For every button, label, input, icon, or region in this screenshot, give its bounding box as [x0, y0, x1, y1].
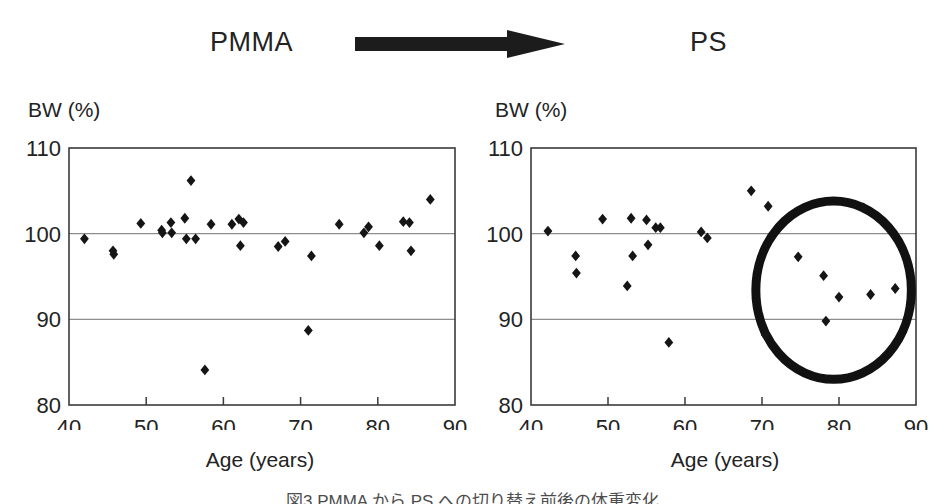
data-point-marker	[822, 316, 831, 327]
figure-caption: 図3 PMMA から PS への切り替え前後の体重変化	[0, 487, 945, 504]
data-point-marker	[835, 292, 844, 303]
data-point-marker	[236, 240, 245, 251]
x-tick-label-60: 60	[673, 415, 697, 430]
data-point-marker	[200, 364, 209, 375]
chart-panel-ps: BW (%) 8090100110405060708090 Age (years…	[470, 0, 945, 504]
x-tick-label-60: 60	[211, 415, 235, 430]
data-point-marker	[187, 175, 196, 186]
y-tick-label-100: 100	[486, 222, 523, 247]
y-tick-label-110: 110	[488, 136, 523, 161]
x-tick-label-70: 70	[750, 415, 774, 430]
x-tick-label-80: 80	[366, 415, 390, 430]
data-point-marker	[274, 241, 283, 252]
data-point-marker	[281, 236, 290, 247]
data-point-marker	[747, 185, 756, 196]
data-point-marker	[544, 226, 553, 237]
low-bw-cluster-highlight	[756, 201, 912, 379]
data-point-marker	[664, 337, 673, 348]
data-point-marker	[182, 233, 191, 244]
x-axis-title-right: Age (years)	[575, 448, 875, 472]
data-point-marker	[891, 283, 900, 294]
data-point-marker	[407, 245, 416, 256]
plot-frame	[69, 148, 455, 405]
data-point-marker	[207, 219, 216, 230]
x-axis-title-left: Age (years)	[110, 448, 410, 472]
scatter-plot-pmma: 8090100110405060708090	[0, 0, 470, 430]
data-point-marker	[571, 251, 580, 262]
x-tick-label-50: 50	[134, 415, 158, 430]
data-point-marker	[426, 194, 435, 205]
data-point-marker	[572, 268, 581, 279]
x-tick-label-90: 90	[443, 415, 467, 430]
data-point-marker	[627, 213, 636, 224]
y-tick-label-100: 100	[24, 222, 61, 247]
data-point-marker	[307, 251, 316, 262]
data-point-marker	[180, 213, 189, 224]
x-tick-label-50: 50	[596, 415, 620, 430]
x-tick-label-80: 80	[827, 415, 851, 430]
data-point-marker	[628, 251, 637, 262]
data-point-marker	[167, 217, 176, 228]
data-point-marker	[191, 233, 200, 244]
data-point-marker	[697, 227, 706, 238]
x-tick-label-40: 40	[57, 415, 81, 430]
x-tick-label-70: 70	[288, 415, 312, 430]
y-tick-label-90: 90	[499, 307, 523, 332]
y-tick-label-90: 90	[37, 307, 61, 332]
x-tick-label-90: 90	[904, 415, 928, 430]
data-point-marker	[304, 325, 313, 336]
data-point-marker	[764, 201, 773, 212]
data-point-marker	[642, 215, 651, 226]
data-point-marker	[375, 240, 384, 251]
x-tick-label-40: 40	[519, 415, 543, 430]
data-point-marker	[656, 222, 665, 233]
data-point-marker	[819, 270, 828, 281]
data-point-marker	[167, 227, 176, 238]
data-point-marker	[80, 233, 89, 244]
plot-frame	[531, 148, 916, 405]
data-point-marker	[644, 239, 653, 250]
data-point-marker	[794, 251, 803, 262]
data-point-marker	[405, 217, 414, 228]
data-point-marker	[136, 218, 145, 229]
data-point-marker	[866, 289, 875, 300]
chart-panel-pmma: BW (%) 8090100110405060708090 Age (years…	[0, 0, 470, 504]
data-point-marker	[623, 281, 632, 292]
scatter-plot-ps: 8090100110405060708090	[470, 0, 945, 430]
y-tick-label-110: 110	[26, 136, 61, 161]
data-point-marker	[227, 219, 236, 230]
data-point-marker	[598, 214, 607, 225]
data-point-marker	[335, 219, 344, 230]
